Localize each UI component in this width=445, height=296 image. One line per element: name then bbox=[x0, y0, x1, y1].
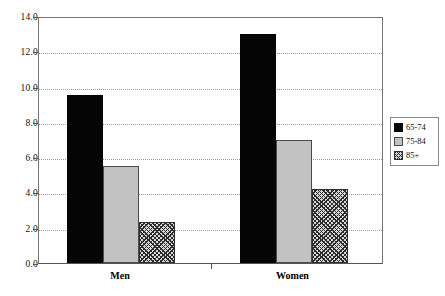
legend-swatch-icon bbox=[394, 123, 403, 132]
bar-men-85-plus bbox=[139, 222, 175, 263]
bar-women-75-84 bbox=[276, 140, 312, 264]
bar-chart: 14.0 12.0 10.0 8.0 6.0 4.0 2.0 0.0 MenWo… bbox=[0, 0, 445, 296]
x-tick-label-men: Men bbox=[110, 270, 129, 281]
plot-area bbox=[38, 17, 383, 264]
legend-label: 65-74 bbox=[406, 123, 426, 132]
legend-swatch-icon bbox=[394, 137, 403, 146]
bar-men-75-84 bbox=[103, 166, 139, 263]
y-tick-mark bbox=[33, 264, 38, 265]
legend-item-85-plus[interactable]: 85+ bbox=[394, 149, 436, 162]
y-axis: 14.0 12.0 10.0 8.0 6.0 4.0 2.0 0.0 bbox=[0, 17, 38, 264]
bar-men-65-74 bbox=[67, 95, 103, 263]
x-tick-mark bbox=[211, 264, 212, 269]
legend-item-75-84[interactable]: 75-84 bbox=[394, 135, 436, 148]
bars-layer bbox=[39, 18, 382, 263]
bar-women-85-plus bbox=[312, 189, 348, 263]
legend-label: 75-84 bbox=[406, 137, 426, 146]
legend-label: 85+ bbox=[406, 151, 419, 160]
bar-women-65-74 bbox=[240, 34, 276, 263]
legend-item-65-74[interactable]: 65-74 bbox=[394, 121, 436, 134]
x-tick-label-women: Women bbox=[276, 270, 309, 281]
legend: 65-74 75-84 85+ bbox=[390, 117, 439, 166]
legend-swatch-icon bbox=[394, 151, 403, 160]
